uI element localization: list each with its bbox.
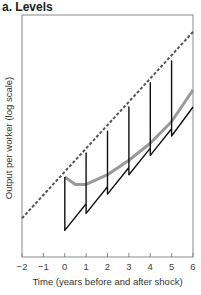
x-tick-label: 0 bbox=[62, 261, 67, 272]
x-tick-label: −2 bbox=[17, 261, 28, 272]
x-tick-label: 4 bbox=[148, 261, 153, 272]
x-tick-label: −1 bbox=[38, 261, 49, 272]
sawtooth-output-line bbox=[65, 61, 193, 230]
x-tick-label: 3 bbox=[126, 261, 131, 272]
x-tick-label: 2 bbox=[105, 261, 110, 272]
x-tick-label: 5 bbox=[169, 261, 174, 272]
chart-plot: −2−10123456 bbox=[0, 0, 201, 295]
x-axis-label: Time (years before and after shock) bbox=[22, 276, 193, 287]
x-tick-label: 6 bbox=[190, 261, 195, 272]
x-axis-ticks: −2−10123456 bbox=[17, 253, 196, 272]
x-tick-label: 1 bbox=[83, 261, 88, 272]
series-group bbox=[22, 32, 193, 231]
